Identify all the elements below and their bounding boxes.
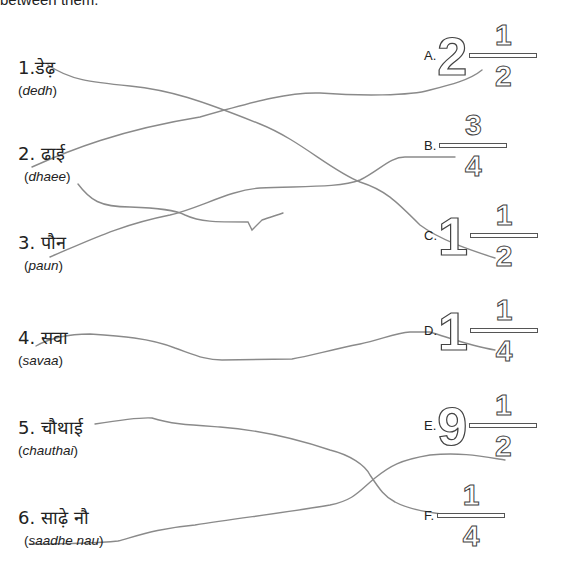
item-number: 1. bbox=[18, 57, 35, 78]
item-number: 3. bbox=[18, 232, 35, 253]
item-letter: D. bbox=[424, 323, 437, 338]
item-number: 4. bbox=[18, 327, 35, 348]
numerator: 3 bbox=[465, 110, 482, 140]
numerator: 1 bbox=[463, 480, 480, 510]
whole-number: 9 bbox=[437, 399, 467, 453]
right-item-D[interactable]: D. 1 1 4 bbox=[424, 295, 538, 366]
fraction-bar bbox=[437, 513, 505, 518]
fraction-bar bbox=[469, 423, 537, 428]
denominator: 4 bbox=[463, 521, 480, 551]
item-letter: C. bbox=[424, 228, 437, 243]
left-item-2[interactable]: 2. ढाई (dhaee) bbox=[18, 141, 71, 184]
transliteration: saadhe nau bbox=[29, 533, 100, 548]
fraction: 1 2 bbox=[469, 20, 537, 91]
denominator: 2 bbox=[496, 241, 513, 271]
item-letter: A. bbox=[424, 48, 436, 63]
whole-number: 1 bbox=[438, 304, 468, 358]
match-line-2-A bbox=[32, 70, 482, 167]
numerator: 1 bbox=[496, 295, 513, 325]
item-number: 6. bbox=[18, 507, 35, 528]
fraction: 1 2 bbox=[469, 390, 537, 461]
whole-number: 1 bbox=[438, 209, 468, 263]
left-item-6[interactable]: 6. साढ़े नौ (saadhe nau) bbox=[18, 505, 104, 548]
match-line-3-B bbox=[50, 157, 455, 257]
right-item-F[interactable]: F. 1 4 bbox=[424, 480, 505, 551]
left-item-3[interactable]: 3. पौन (paun) bbox=[18, 230, 66, 273]
hindi-word: चौथाई bbox=[41, 417, 83, 438]
match-line-2-branch bbox=[78, 184, 283, 230]
match-line-5-F bbox=[95, 418, 450, 515]
item-letter: E. bbox=[424, 418, 436, 433]
right-item-C[interactable]: C. 1 1 2 bbox=[424, 200, 538, 271]
hindi-word: डेढ़ bbox=[35, 57, 55, 78]
hindi-word: पौन bbox=[41, 232, 66, 253]
item-letter: F. bbox=[424, 508, 434, 523]
left-item-1[interactable]: 1.डेढ़ (dedh) bbox=[18, 55, 57, 98]
numerator: 1 bbox=[495, 20, 512, 50]
item-number: 5. bbox=[18, 417, 35, 438]
fraction-bar bbox=[470, 233, 538, 238]
transliteration: paun bbox=[29, 258, 59, 273]
numerator: 1 bbox=[496, 200, 513, 230]
whole-number: 2 bbox=[437, 29, 467, 83]
fraction-bar bbox=[439, 143, 507, 148]
denominator: 2 bbox=[495, 431, 512, 461]
fraction: 1 4 bbox=[470, 295, 538, 366]
right-item-A[interactable]: A. 2 1 2 bbox=[424, 20, 537, 91]
hindi-word: ढाई bbox=[41, 143, 65, 164]
transliteration: savaa bbox=[23, 353, 59, 368]
hindi-word: सवा bbox=[41, 327, 68, 348]
denominator: 2 bbox=[495, 61, 512, 91]
transliteration: dhaee bbox=[29, 169, 67, 184]
item-letter: B. bbox=[424, 138, 436, 153]
transliteration: dedh bbox=[23, 83, 53, 98]
item-number: 2. bbox=[18, 143, 35, 164]
transliteration: chauthai bbox=[23, 443, 74, 458]
fraction: 3 4 bbox=[439, 110, 507, 181]
right-item-E[interactable]: E. 9 1 2 bbox=[424, 390, 537, 461]
numerator: 1 bbox=[495, 390, 512, 420]
denominator: 4 bbox=[496, 336, 513, 366]
fraction-bar bbox=[470, 328, 538, 333]
left-item-5[interactable]: 5. चौथाई (chauthai) bbox=[18, 415, 83, 458]
left-item-4[interactable]: 4. सवा (savaa) bbox=[18, 325, 68, 368]
right-item-B[interactable]: B. 3 4 bbox=[424, 110, 507, 181]
fraction: 1 4 bbox=[437, 480, 505, 551]
fraction-bar bbox=[469, 53, 537, 58]
denominator: 4 bbox=[465, 151, 482, 181]
fraction: 1 2 bbox=[470, 200, 538, 271]
hindi-word: साढ़े नौ bbox=[41, 507, 89, 528]
